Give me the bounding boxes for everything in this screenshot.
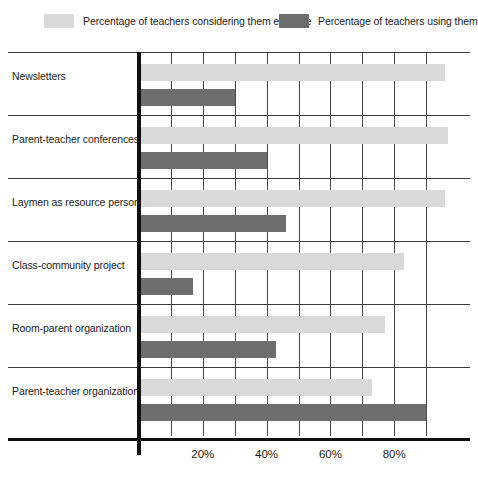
- legend-swatch-effective: [44, 14, 74, 28]
- legend-swatch-using: [279, 14, 309, 28]
- grouped-bar-chart: Percentage of teachers considering them …: [0, 0, 478, 493]
- legend-item-using: Percentage of teachers using them: [279, 14, 478, 28]
- bar-group-5: Parent-teacher organization: [0, 367, 478, 430]
- bar-using-5: [139, 404, 426, 421]
- category-label-2: Laymen as resource persons: [12, 196, 145, 208]
- bar-using-0: [139, 89, 235, 106]
- bar-using-4: [139, 341, 276, 358]
- x-tick-label-60: 60%: [319, 448, 342, 460]
- category-label-4: Room-parent organization: [12, 322, 131, 334]
- legend-label-effective: Percentage of teachers considering them …: [83, 15, 311, 27]
- row-separator-3: [8, 241, 470, 242]
- bar-effective-4: [139, 316, 385, 333]
- legend-item-effective: Percentage of teachers considering them …: [44, 14, 311, 28]
- bar-effective-5: [139, 379, 372, 396]
- row-separator-4: [8, 304, 470, 305]
- category-label-0: Newsletters: [12, 70, 66, 82]
- bar-effective-0: [139, 64, 445, 81]
- bar-group-2: Laymen as resource persons: [0, 178, 478, 241]
- bar-effective-2: [139, 190, 445, 207]
- bar-using-1: [139, 152, 267, 169]
- x-tick-label-20: 20%: [191, 448, 214, 460]
- bar-using-2: [139, 215, 286, 232]
- row-separator-0: [8, 52, 470, 53]
- row-separator-2: [8, 178, 470, 179]
- bar-group-0: Newsletters: [0, 52, 478, 115]
- row-separator-1: [8, 115, 470, 116]
- bar-effective-3: [139, 253, 404, 270]
- bar-group-3: Class-community project: [0, 241, 478, 304]
- bar-using-3: [139, 278, 193, 295]
- x-axis-tick-labels: 20%40%60%80%: [0, 448, 478, 468]
- bar-effective-1: [139, 127, 448, 144]
- bar-group-4: Room-parent organization: [0, 304, 478, 367]
- plot-area: NewslettersParent-teacher conferencesLay…: [0, 52, 478, 440]
- chart-legend: Percentage of teachers considering them …: [0, 14, 478, 38]
- x-tick-label-80: 80%: [383, 448, 406, 460]
- y-axis-line: [137, 52, 141, 440]
- legend-label-using: Percentage of teachers using them: [318, 15, 478, 27]
- x-axis-line: [8, 438, 470, 441]
- category-label-3: Class-community project: [12, 259, 125, 271]
- category-label-5: Parent-teacher organization: [12, 385, 139, 397]
- bar-group-1: Parent-teacher conferences: [0, 115, 478, 178]
- category-label-1: Parent-teacher conferences: [12, 133, 139, 145]
- row-separator-5: [8, 367, 470, 368]
- x-tick-label-40: 40%: [255, 448, 278, 460]
